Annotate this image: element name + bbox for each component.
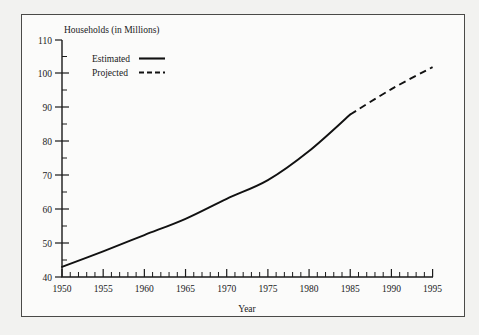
- y-label-50: 50: [43, 239, 53, 249]
- x-label-1965: 1965: [176, 284, 195, 294]
- x-label-1950: 1950: [53, 284, 72, 294]
- y-label-90: 90: [43, 103, 53, 113]
- x-label-1955: 1955: [94, 284, 113, 294]
- page-root: 110 100 90 80 70 60 50 40 Households (in…: [0, 0, 479, 335]
- y-label-40: 40: [43, 273, 53, 283]
- x-axis: 1950 1955 1960 1965 1970 1975 1980 1985 …: [53, 269, 443, 294]
- y-axis: 110 100 90 80 70 60 50 40: [38, 36, 69, 283]
- y-label-100: 100: [38, 69, 53, 79]
- y-axis-title: Households (in Millions): [64, 25, 160, 36]
- line-chart: 110 100 90 80 70 60 50 40 Households (in…: [0, 0, 479, 335]
- x-label-1975: 1975: [258, 284, 277, 294]
- x-label-1985: 1985: [341, 284, 360, 294]
- legend-label-estimated: Estimated: [92, 54, 130, 64]
- y-label-60: 60: [43, 205, 53, 215]
- y-label-70: 70: [43, 171, 53, 181]
- x-label-1980: 1980: [300, 284, 319, 294]
- y-label-110: 110: [38, 36, 52, 46]
- x-label-1960: 1960: [135, 284, 154, 294]
- x-label-1970: 1970: [217, 284, 236, 294]
- x-axis-title: Year: [238, 304, 256, 314]
- y-label-80: 80: [43, 137, 53, 147]
- chart-legend: Estimated Projected: [92, 54, 165, 78]
- series-estimated-line: [62, 114, 350, 266]
- x-label-1995: 1995: [423, 284, 442, 294]
- series-projected-line: [350, 67, 432, 114]
- legend-label-projected: Projected: [92, 68, 128, 78]
- x-label-1990: 1990: [382, 284, 401, 294]
- chart-svg: 110 100 90 80 70 60 50 40 Households (in…: [0, 0, 479, 335]
